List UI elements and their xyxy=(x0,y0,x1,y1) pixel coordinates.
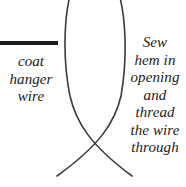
instruction-label: Sew hem in opening and thread the wire t… xyxy=(124,34,186,157)
coat-hanger-wire-label: coat hanger wire xyxy=(0,53,62,106)
diagram-canvas: coat hanger wire Sew hem in opening and … xyxy=(0,0,186,187)
fabric-curve-right xyxy=(57,0,125,176)
coat-hanger-wire-bar xyxy=(0,41,58,45)
